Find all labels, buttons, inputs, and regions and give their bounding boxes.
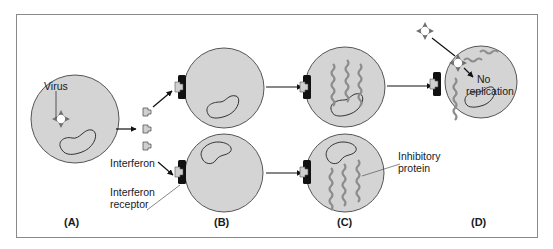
receptor-icon-b-top — [175, 75, 186, 99]
virus-icon-d-outside — [416, 22, 434, 40]
panel-label-a: (A) — [64, 216, 79, 228]
cell-c-top — [305, 47, 385, 127]
virus-label: Virus — [44, 80, 68, 92]
receptor-icon-b-bottom — [175, 160, 186, 184]
cell-b-top — [184, 48, 264, 128]
receptor-icon-c-bottom — [300, 160, 311, 184]
panel-label-d: (D) — [471, 216, 486, 228]
interferon-icon-2 — [143, 125, 151, 133]
interferon-diagram — [0, 0, 553, 249]
no-replication-label-line1: No — [477, 73, 490, 85]
interferon-icon-1 — [143, 108, 151, 116]
inhibitory-protein-label-line2: protein — [398, 162, 430, 174]
panel-label-b: (B) — [214, 216, 229, 228]
receptor-icon-c-top — [300, 75, 311, 99]
inhibitory-protein-label-line1: Inhibitory — [398, 150, 441, 162]
interferon-receptor-label-line2: receptor — [110, 198, 149, 210]
interferon-receptor-label-line1: Interferon — [110, 186, 155, 198]
panel-label-c: (C) — [337, 216, 352, 228]
receptor-icon-d — [430, 72, 441, 96]
no-replication-label-line2: replication — [466, 85, 514, 97]
interferon-icon-3 — [143, 142, 151, 150]
cell-b-bottom — [185, 134, 263, 212]
interferon-label: Interferon — [110, 157, 155, 169]
